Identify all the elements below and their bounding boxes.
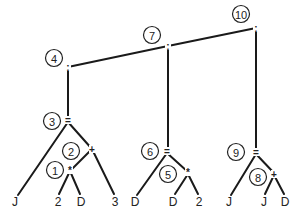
node-number: 5 <box>165 169 171 181</box>
leaf-operand: D <box>77 195 86 209</box>
operator-symbol: * <box>68 165 72 176</box>
node-number: 4 <box>51 53 57 65</box>
tree-edge <box>92 149 114 194</box>
tree-edge <box>18 122 68 195</box>
operator-symbol: * <box>186 167 190 178</box>
tree-edge <box>168 28 256 46</box>
node-number: 2 <box>68 146 74 158</box>
tree-node-5: *5 <box>160 166 192 183</box>
operator-symbol: = <box>164 146 170 157</box>
tree-node-4: ;4 <box>46 50 72 73</box>
operator-symbol: ; <box>166 41 169 52</box>
leaf-operand: D <box>281 195 290 209</box>
node-number: 8 <box>255 172 261 184</box>
leaf-operand: D <box>169 195 178 209</box>
tree-node-3: =3 <box>44 113 72 130</box>
operator-symbol: ; <box>254 23 257 34</box>
operator-symbol: = <box>253 147 259 158</box>
node-number: 6 <box>147 146 153 158</box>
leaf-operand: 2 <box>196 195 203 209</box>
tree-nodes: ;10;7;4=3+2*1=6*5=9+8 <box>44 6 278 186</box>
leaf-operand: J <box>261 195 267 209</box>
node-number: 1 <box>52 165 58 177</box>
operator-symbol: + <box>271 169 277 180</box>
operator-symbol: = <box>65 115 71 126</box>
tree-leaves: J2D3DD2JJD <box>12 195 290 209</box>
node-number: 9 <box>233 147 239 159</box>
node-number: 3 <box>49 116 55 128</box>
leaf-operand: J <box>226 195 232 209</box>
tree-node-2: +2 <box>63 143 96 160</box>
leaf-operand: 3 <box>112 195 119 209</box>
node-number: 10 <box>235 9 247 21</box>
tree-node-1: *1 <box>47 162 74 179</box>
leaf-operand: J <box>12 195 18 209</box>
operator-symbol: + <box>89 144 95 155</box>
node-number: 7 <box>149 30 155 42</box>
operator-symbol: ; <box>66 62 69 73</box>
leaf-operand: D <box>131 195 140 209</box>
tree-node-6: =6 <box>142 143 171 160</box>
tree-node-8: +8 <box>250 169 278 186</box>
leaf-operand: 2 <box>55 195 62 209</box>
parse-tree-diagram: ;10;7;4=3+2*1=6*5=9+8 J2D3DD2JJD <box>0 0 292 214</box>
tree-edge <box>68 46 168 67</box>
